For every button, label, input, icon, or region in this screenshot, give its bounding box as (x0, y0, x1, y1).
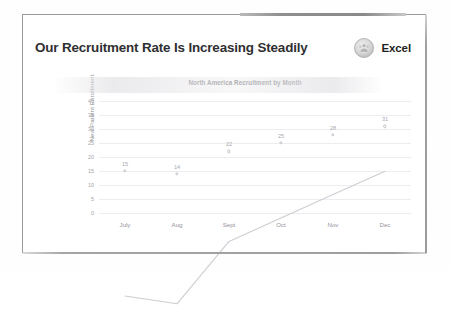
page-title: Our Recruitment Rate Is Increasing Stead… (35, 41, 308, 54)
data-point-label: 22 (226, 141, 232, 147)
y-axis-tick-label: 5 (78, 196, 94, 202)
data-point-label: 28 (330, 125, 336, 131)
y-axis-tick-label: 15 (78, 168, 94, 174)
slide-frame: Our Recruitment Rate Is Increasing Stead… (22, 14, 426, 253)
data-point-label: 14 (174, 164, 180, 170)
y-axis-title: New Patient Enrollment (88, 52, 98, 164)
x-axis-tick-label: Sept (223, 221, 236, 228)
y-axis-tick-label: 10 (78, 182, 94, 188)
x-axis-tick-label: Oct (276, 221, 285, 228)
x-axis-tick-label: July (120, 221, 131, 228)
data-point-label: 31 (382, 116, 388, 122)
x-axis-tick-label: Aug (172, 221, 183, 228)
data-point-labels: 151422252831 (99, 101, 411, 213)
data-point-label: 25 (278, 133, 284, 139)
x-axis-tick-label: Nov (328, 221, 339, 228)
y-axis-tick-label: 0 (78, 210, 94, 216)
brand-name: Excel (381, 42, 411, 54)
frame-shadow-bottom (23, 252, 427, 254)
brand-lockup: Excel (354, 38, 413, 58)
plot-area: 4035302520151050 151422252831 JulyAugSep… (99, 101, 411, 213)
y-axis-tick-label: 35 (78, 112, 94, 118)
y-axis-tick-label: 30 (78, 126, 94, 132)
x-axis-tick-label: Dec (380, 221, 391, 228)
people-emblem-icon (354, 38, 374, 58)
chart-title: North America Recruitment by Month (75, 79, 415, 86)
y-axis-tick-label: 25 (78, 140, 94, 146)
frame-shadow-top (240, 13, 406, 16)
frame-shadow-right (425, 15, 427, 253)
y-axis-tick-label: 40 (78, 98, 94, 104)
data-point-label: 15 (122, 161, 128, 167)
chart-container: North America Recruitment by Month New P… (75, 79, 415, 244)
y-axis-tick-label: 20 (78, 154, 94, 160)
